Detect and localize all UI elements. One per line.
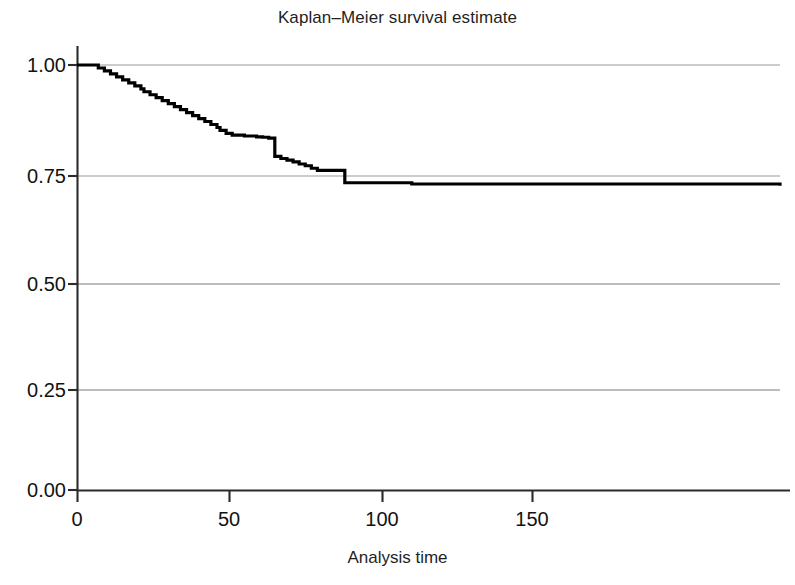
kaplan-meier-chart-figure: Kaplan–Meier survival estimate <box>0 0 795 585</box>
xtick-label-0: 0 <box>32 508 122 531</box>
ytick-label-1-00: 1.00 <box>0 54 66 77</box>
survival-curve <box>77 65 780 186</box>
ytick-label-0-50: 0.50 <box>0 273 66 296</box>
x-axis-ticks <box>78 490 533 502</box>
x-axis-title: Analysis time <box>0 548 795 568</box>
xtick-label-150: 150 <box>487 508 577 531</box>
axis-lines <box>77 46 790 491</box>
xtick-label-100: 100 <box>337 508 427 531</box>
ytick-label-0-00: 0.00 <box>0 479 66 502</box>
ytick-label-0-75: 0.75 <box>0 165 66 188</box>
ytick-label-0-25: 0.25 <box>0 379 66 402</box>
xtick-label-50: 50 <box>184 508 274 531</box>
plot-area <box>0 0 795 585</box>
grid-lines <box>77 65 780 390</box>
